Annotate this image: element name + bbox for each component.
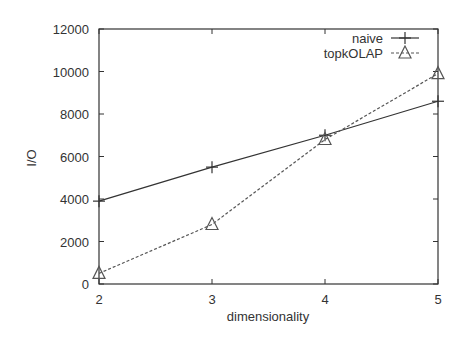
y-tick-label: 6000 [60, 150, 89, 165]
y-tick-label: 10000 [53, 65, 89, 80]
legend-label-topkolap: topkOLAP [324, 46, 383, 61]
y-axis-ticks: 020004000600080001000012000 [53, 22, 438, 292]
y-tick-label: 2000 [60, 235, 89, 250]
y-tick-label: 12000 [53, 22, 89, 37]
series-line [99, 101, 438, 201]
y-tick-label: 0 [82, 277, 89, 292]
triangle-marker [206, 218, 218, 230]
series-layer [93, 67, 444, 279]
series-line [99, 74, 438, 274]
plot-border [99, 29, 438, 284]
legend-swatches [391, 32, 419, 58]
x-tick-label: 4 [321, 292, 328, 307]
y-axis-label: I/O [24, 149, 39, 166]
plot-frame [99, 29, 438, 284]
y-tick-label: 8000 [60, 107, 89, 122]
legend-label-naive: naive [352, 31, 383, 46]
x-axis-ticks: 2345 [95, 29, 441, 307]
y-tick-label: 4000 [60, 192, 89, 207]
x-tick-label: 2 [95, 292, 102, 307]
x-axis-label: dimensionality [227, 309, 310, 324]
x-tick-label: 5 [434, 292, 441, 307]
line-chart: 020004000600080001000012000 2345 I/O dim… [0, 0, 465, 353]
legend: naive topkOLAP [324, 31, 419, 61]
series-naive [93, 95, 444, 207]
series-topkolap [93, 67, 444, 279]
triangle-marker [399, 46, 411, 58]
x-tick-label: 3 [208, 292, 215, 307]
